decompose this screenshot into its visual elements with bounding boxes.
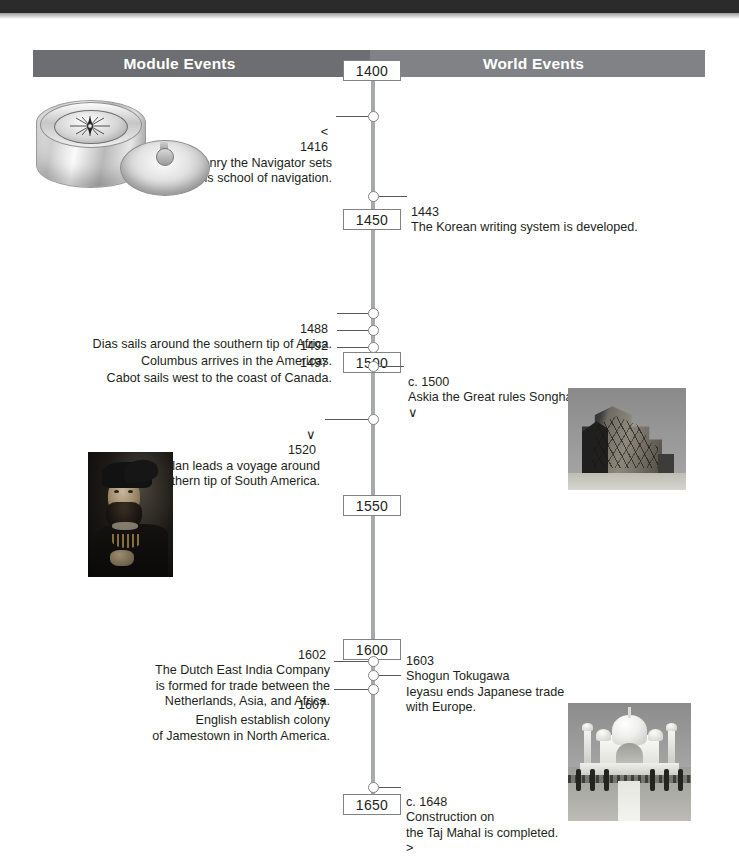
- timeline-node-1492[interactable]: [368, 325, 379, 336]
- taj-minaret-left-outer-cap: [582, 723, 593, 731]
- event-1500-year: c. 1500: [408, 375, 449, 389]
- timeline-node-1416[interactable]: [368, 111, 379, 122]
- timeline-node-1443[interactable]: [368, 191, 379, 202]
- connector-1602: [334, 661, 368, 662]
- event-1416-chevron: <: [321, 125, 328, 139]
- portrait-hand: [110, 550, 134, 566]
- timeline-node-1500[interactable]: [368, 361, 379, 372]
- event-1607-text: English establish colony of Jamestown in…: [152, 713, 330, 743]
- timeline-node-1648[interactable]: [368, 782, 379, 793]
- event-1500-chevron-down: ∨: [408, 406, 418, 420]
- connector-1443: [379, 196, 407, 197]
- world-events-title: World Events: [483, 55, 584, 73]
- event-1497-text: Cabot sails west to the coast of Canada.: [107, 371, 332, 385]
- connector-1492: [337, 330, 368, 331]
- event-1648-chevron-right: >: [406, 841, 413, 855]
- tomb-side-wall: [658, 454, 674, 474]
- page-top-edge-shadow: [0, 13, 739, 19]
- event-1603-text: Shogun Tokugawa Ieyasu ends Japanese tra…: [406, 669, 564, 714]
- taj-cypress-2: [590, 769, 595, 791]
- taj-minaret-left-outer: [584, 729, 591, 767]
- tomb-ground: [568, 473, 686, 490]
- taj-minaret-right-outer: [668, 729, 675, 767]
- event-1497-year: 1497: [300, 356, 328, 370]
- taj-small-dome-left: [596, 729, 611, 741]
- event-1648-year: c. 1648: [406, 795, 447, 809]
- taj-cypress-1: [576, 769, 581, 791]
- connector-1603: [379, 675, 401, 676]
- module-events-title: Module Events: [124, 55, 236, 73]
- portrait-collar: [112, 522, 138, 530]
- timeline-node-1520[interactable]: [368, 414, 379, 425]
- event-1648: c. 1648 Construction on the Taj Mahal is…: [406, 779, 571, 857]
- connector-1416: [336, 116, 368, 117]
- connector-1607: [334, 689, 368, 690]
- page-top-edge: [0, 0, 739, 13]
- world-events-header: World Events: [370, 50, 705, 77]
- event-1520-year: 1520: [288, 443, 316, 457]
- event-1648-text: Construction on the Taj Mahal is complet…: [406, 810, 558, 840]
- connector-1520: [325, 419, 368, 420]
- portrait-torso: [94, 524, 168, 577]
- taj-minaret-right-outer-cap: [666, 723, 677, 731]
- taj-cypress-5: [664, 769, 669, 791]
- event-1603-year: 1603: [406, 654, 434, 668]
- compass-rose-icon: [68, 115, 112, 137]
- timeline-node-1607[interactable]: [368, 684, 379, 695]
- event-1443: 1443 The Korean writing system is develo…: [411, 189, 691, 236]
- event-1602-year: 1602: [298, 648, 326, 662]
- taj-finial: [628, 707, 631, 718]
- compass-lid-knob: [156, 148, 174, 166]
- connector-1497: [337, 347, 368, 348]
- year-marker-1400: 1400: [343, 60, 401, 81]
- event-1607-year: 1607: [298, 698, 326, 712]
- connector-1500: [379, 366, 404, 367]
- event-1520-chevron: ∨: [306, 428, 316, 442]
- timeline-node-1603[interactable]: [368, 670, 379, 681]
- event-1607: 1607 English establish colony of Jamesto…: [118, 682, 330, 744]
- connector-1648: [379, 787, 401, 788]
- timeline-spine: [371, 66, 375, 806]
- event-1443-year: 1443: [411, 205, 439, 219]
- portrait-chain: [112, 534, 142, 548]
- event-1497: 1497 Cabot sails west to the coast of Ca…: [60, 340, 332, 387]
- tomb-of-askia-image: [568, 388, 686, 490]
- module-events-header: Module Events: [33, 50, 370, 77]
- mariners-compass-image: [28, 94, 210, 198]
- timeline-node-1488[interactable]: [368, 308, 379, 319]
- portrait-left-eye: [114, 490, 119, 493]
- timeline-node-1602[interactable]: [368, 656, 379, 667]
- taj-small-dome-right: [648, 729, 663, 741]
- magellan-portrait-image: [88, 452, 173, 577]
- event-1603: 1603 Shogun Tokugawa Ieyasu ends Japanes…: [406, 638, 566, 716]
- connector-1488: [337, 313, 368, 314]
- event-1443-text: The Korean writing system is developed.: [411, 220, 638, 234]
- taj-cypress-3: [604, 769, 609, 791]
- taj-cypress-6: [678, 769, 683, 791]
- taj-main-dome: [612, 715, 647, 745]
- year-marker-1550: 1550: [343, 495, 401, 516]
- year-marker-1450: 1450: [343, 209, 401, 230]
- event-1416-year: 1416: [300, 140, 328, 154]
- taj-mahal-image: [568, 703, 691, 821]
- timeline-node-1497[interactable]: [368, 342, 379, 353]
- event-1500-text: Askia the Great rules Songhai.: [408, 390, 579, 404]
- taj-cypress-4: [650, 769, 655, 791]
- portrait-right-eye: [128, 490, 133, 493]
- taj-reflecting-pool: [618, 781, 640, 821]
- year-marker-1650: 1650: [343, 794, 401, 815]
